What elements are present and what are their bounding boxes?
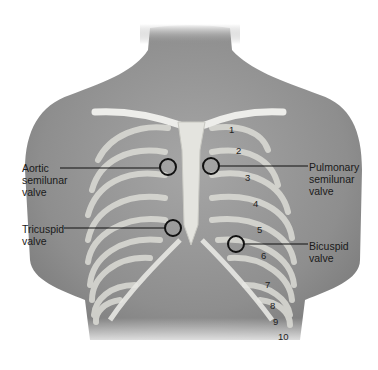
rib-number-7: 7 — [265, 279, 270, 290]
bicuspid-valve-label: Bicuspid valve — [309, 240, 349, 264]
rib-number-3: 3 — [245, 172, 250, 183]
rib-number-1: 1 — [229, 124, 234, 135]
rib-number-5: 5 — [257, 224, 262, 235]
rib-number-6: 6 — [261, 250, 266, 261]
aortic-valve-label: Aortic semilunar valve — [22, 162, 68, 198]
pulmonary-valve-label: Pulmonary semilunar valve — [309, 161, 359, 197]
tricuspid-valve-label: Tricuspid valve — [22, 223, 64, 247]
chest-diagram: Aortic semilunar valve Pulmonary semilun… — [0, 0, 378, 370]
rib-number-2: 2 — [236, 145, 241, 156]
rib-number-8: 8 — [270, 300, 275, 311]
rib-number-9: 9 — [273, 316, 278, 327]
rib-number-4: 4 — [253, 198, 258, 209]
rib-number-10: 10 — [278, 331, 289, 342]
